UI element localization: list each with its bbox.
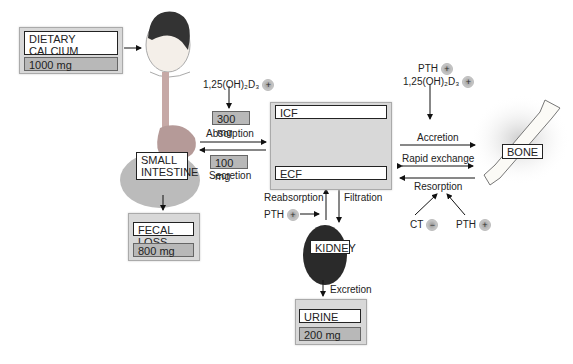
reabsorption-label: Reabsorption bbox=[264, 192, 323, 203]
absorption-label: Absorption bbox=[206, 128, 254, 139]
accretion-label: Accretion bbox=[417, 132, 459, 143]
fecal-amount: 800 mg bbox=[133, 243, 194, 257]
bone-pth-top-label: PTH+ bbox=[418, 63, 453, 75]
bone-label: BONE bbox=[502, 144, 543, 159]
intake-label: DIETARY CALCIUMINTAKE bbox=[24, 31, 118, 55]
icf-label: ICF bbox=[275, 105, 387, 119]
resorption-label: Resorption bbox=[414, 181, 462, 192]
urine-label: URINE bbox=[299, 309, 361, 323]
rapid-exchange-label: Rapid exchange bbox=[402, 153, 474, 164]
plus-icon: + bbox=[462, 76, 474, 88]
bone-pth-bottom-label: PTH+ bbox=[456, 219, 491, 231]
absorption-amount: 300 mg bbox=[212, 111, 250, 125]
excretion-label: Excretion bbox=[330, 284, 372, 295]
kidney-pth-label: PTH+ bbox=[264, 209, 299, 221]
filtration-label: Filtration bbox=[344, 192, 382, 203]
secretion-label: Secretion bbox=[209, 170, 251, 181]
small-intestine-label: SMALLINTESTINE bbox=[136, 152, 188, 180]
plus-icon: + bbox=[479, 219, 491, 231]
vitd-absorption-label: 1,25(OH)₂D₃+ bbox=[203, 79, 274, 91]
urine-amount: 200 mg bbox=[299, 327, 361, 341]
plus-icon: + bbox=[441, 63, 453, 75]
ct-label: CT− bbox=[410, 219, 438, 231]
fecal-label: FECAL LOSS bbox=[133, 222, 194, 236]
bone-vitd-label: 1,25(OH)₂D₃+ bbox=[403, 76, 474, 88]
plus-icon: + bbox=[287, 209, 299, 221]
minus-icon: − bbox=[426, 219, 438, 231]
intake-amount: 1000 mg bbox=[24, 57, 118, 71]
head-illustration bbox=[146, 12, 190, 77]
plus-icon: + bbox=[262, 79, 274, 91]
ecf-label: ECF bbox=[275, 166, 387, 180]
secretion-amount: 100 mg bbox=[210, 155, 248, 169]
kidney-label: KIDNEY bbox=[310, 240, 350, 254]
